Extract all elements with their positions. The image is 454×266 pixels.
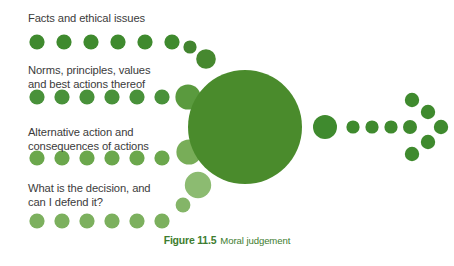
- moral-judgement-core: [188, 70, 302, 184]
- moral-judgement-diagram: [0, 0, 454, 266]
- stage-dots-norms: [29, 89, 169, 104]
- figure-caption: Figure 11.5Moral judgement: [0, 234, 454, 246]
- figure-caption-title: Moral judgement: [220, 235, 290, 246]
- stage-dots-facts: [29, 34, 179, 49]
- outcome-arrow-shaft: [313, 115, 417, 139]
- stage-dots-alternative: [29, 150, 169, 165]
- figure-moral-judgement: Facts and ethical issues Norms, principl…: [0, 0, 454, 266]
- stage-converge-facts: [183, 40, 215, 68]
- stage-dots-decision: [29, 213, 169, 228]
- figure-caption-number: Figure 11.5: [164, 234, 217, 246]
- stage-converge-decision: [176, 172, 212, 213]
